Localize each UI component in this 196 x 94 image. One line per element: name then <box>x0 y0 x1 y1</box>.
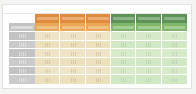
table-cell[interactable] <box>35 49 60 58</box>
table-header <box>9 14 187 32</box>
row-label-text <box>9 58 35 67</box>
row-label[interactable] <box>9 75 35 84</box>
table-cell[interactable] <box>60 75 85 84</box>
cell-value <box>35 58 60 67</box>
cell-value <box>162 58 187 67</box>
table-cell[interactable] <box>136 41 161 50</box>
table-cell[interactable] <box>162 67 187 76</box>
table-row[interactable] <box>9 67 187 76</box>
table-cell[interactable] <box>35 67 60 76</box>
table-cell[interactable] <box>86 58 111 67</box>
table-cell[interactable] <box>35 41 60 50</box>
row-label[interactable] <box>9 32 35 41</box>
column-header-6-label <box>164 26 185 29</box>
table-row[interactable] <box>9 58 187 67</box>
cell-value <box>86 67 111 76</box>
cell-value <box>136 32 161 41</box>
row-label-text <box>9 49 35 58</box>
table-cell[interactable] <box>60 67 85 76</box>
cell-value <box>60 58 85 67</box>
column-header-2-label <box>62 26 83 29</box>
table-cell[interactable] <box>60 41 85 50</box>
table-cell[interactable] <box>111 75 136 84</box>
table-cell[interactable] <box>35 75 60 84</box>
cell-value <box>86 41 111 50</box>
cell-value <box>35 32 60 41</box>
row-label[interactable] <box>9 67 35 76</box>
cell-value <box>136 67 161 76</box>
row-label-text <box>9 75 35 84</box>
row-label[interactable] <box>9 58 35 67</box>
column-header-2[interactable] <box>60 23 85 32</box>
table-cell[interactable] <box>136 75 161 84</box>
column-header-1-label <box>37 26 58 29</box>
table-row[interactable] <box>9 41 187 50</box>
row-label[interactable] <box>9 49 35 58</box>
table-cell[interactable] <box>162 41 187 50</box>
cell-value <box>35 49 60 58</box>
row-label-text <box>9 32 35 41</box>
table-cell[interactable] <box>136 32 161 41</box>
document-card <box>2 4 192 89</box>
column-header-5[interactable] <box>136 23 161 32</box>
table-cell[interactable] <box>111 32 136 41</box>
row-label-text <box>9 41 35 50</box>
row-label-text <box>9 67 35 76</box>
group-header-orange-2-label <box>62 17 83 20</box>
cell-value <box>136 58 161 67</box>
group-header-green-3[interactable] <box>162 14 187 23</box>
table-cell[interactable] <box>162 75 187 84</box>
column-header-3[interactable] <box>86 23 111 32</box>
table-cell[interactable] <box>111 58 136 67</box>
table-cell[interactable] <box>60 32 85 41</box>
table-cell[interactable] <box>111 41 136 50</box>
cell-value <box>60 49 85 58</box>
column-header-4[interactable] <box>111 23 136 32</box>
table-cell[interactable] <box>136 67 161 76</box>
group-header-orange-1-label <box>37 17 58 20</box>
group-header-orange-3[interactable] <box>86 14 111 23</box>
cell-value <box>86 32 111 41</box>
group-header-orange-1[interactable] <box>35 14 60 23</box>
table-cell[interactable] <box>35 58 60 67</box>
table-row[interactable] <box>9 75 187 84</box>
group-header-green-1-label <box>113 17 134 20</box>
group-header-green-1[interactable] <box>111 14 136 23</box>
cell-value <box>35 41 60 50</box>
table-cell[interactable] <box>162 32 187 41</box>
table-cell[interactable] <box>35 32 60 41</box>
cell-value <box>111 58 136 67</box>
cell-value <box>86 58 111 67</box>
group-header-orange-2[interactable] <box>60 14 85 23</box>
table-cell[interactable] <box>136 49 161 58</box>
table-cell[interactable] <box>86 32 111 41</box>
cell-value <box>60 67 85 76</box>
table-row[interactable] <box>9 49 187 58</box>
table-cell[interactable] <box>136 58 161 67</box>
column-header-6[interactable] <box>162 23 187 32</box>
column-header-3-label <box>88 26 109 29</box>
cell-value <box>35 75 60 84</box>
column-header-4-label <box>113 26 134 29</box>
cell-value <box>162 32 187 41</box>
group-header-green-2[interactable] <box>136 14 161 23</box>
table-row[interactable] <box>9 32 187 41</box>
table-cell[interactable] <box>86 41 111 50</box>
table-cell[interactable] <box>111 67 136 76</box>
column-header-1[interactable] <box>35 23 60 32</box>
data-table[interactable] <box>9 14 187 84</box>
table-cell[interactable] <box>60 58 85 67</box>
group-header-orange-3-label <box>88 17 109 20</box>
table-cell[interactable] <box>86 75 111 84</box>
table-cell[interactable] <box>60 49 85 58</box>
table-cell[interactable] <box>162 58 187 67</box>
table-cell[interactable] <box>86 49 111 58</box>
cell-value <box>111 49 136 58</box>
cell-value <box>35 67 60 76</box>
table-cell[interactable] <box>162 49 187 58</box>
table-cell[interactable] <box>86 67 111 76</box>
table-cell[interactable] <box>111 49 136 58</box>
row-label[interactable] <box>9 41 35 50</box>
data-table-container[interactable] <box>9 14 187 84</box>
group-header-green-2-label <box>138 17 159 20</box>
